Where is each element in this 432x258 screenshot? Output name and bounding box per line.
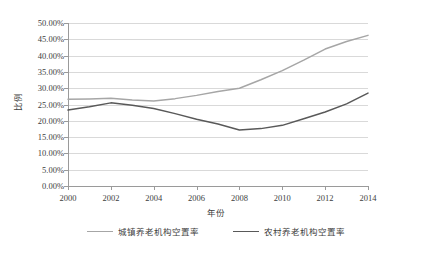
x-tick-mark xyxy=(282,186,283,190)
legend-line-swatch-rural xyxy=(233,231,259,232)
x-tick-mark xyxy=(239,186,240,190)
line-chart: 50.00% 45.00% 40.00% 35.00% 30.00% 25.00… xyxy=(0,0,432,258)
chart-legend: 城镇养老机构空置率 农村养老机构空置率 xyxy=(0,225,432,237)
x-tick-label: 2004 xyxy=(134,193,174,203)
x-tick-mark xyxy=(368,186,369,190)
y-axis-title: 比例 xyxy=(11,93,23,111)
x-tick-label: 2006 xyxy=(177,193,217,203)
x-tick-label: 2002 xyxy=(91,193,131,203)
legend-item-rural[interactable]: 农村养老机构空置率 xyxy=(233,225,345,237)
x-tick-mark xyxy=(325,186,326,190)
x-tick-label: 2008 xyxy=(219,193,259,203)
x-axis-title: 年份 xyxy=(0,206,432,218)
series-layer xyxy=(0,0,432,258)
x-tick-label: 2014 xyxy=(348,193,388,203)
legend-line-swatch-urban xyxy=(87,231,113,232)
legend-label-urban: 城镇养老机构空置率 xyxy=(118,225,199,237)
x-tick-mark xyxy=(111,186,112,190)
x-tick-mark xyxy=(197,186,198,190)
legend-label-rural: 农村养老机构空置率 xyxy=(264,225,345,237)
x-tick-label: 2000 xyxy=(48,193,88,203)
x-tick-mark xyxy=(68,186,69,190)
x-tick-label: 2012 xyxy=(305,193,345,203)
x-tick-label: 2010 xyxy=(262,193,302,203)
x-tick-mark xyxy=(154,186,155,190)
series-line-urban xyxy=(68,35,368,101)
legend-item-urban[interactable]: 城镇养老机构空置率 xyxy=(87,225,199,237)
